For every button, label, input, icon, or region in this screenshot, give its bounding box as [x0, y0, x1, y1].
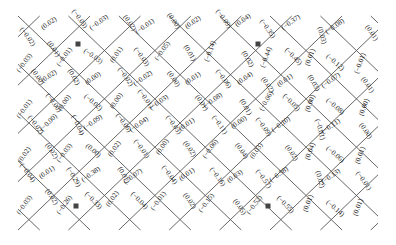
edge-weight-label: (0.01) [301, 193, 315, 213]
edge-weight-label: (0.04) [233, 141, 250, 160]
edge-weight-label: (0.00) [108, 91, 125, 110]
edge-weight-label: (−0.07) [320, 71, 343, 90]
edge-weight-label: (0.02) [106, 139, 123, 158]
node-marker [74, 204, 79, 209]
edge-weight-label: (−0.03) [82, 47, 105, 66]
node-marker [76, 42, 81, 47]
edge-weight-label: (−0.02) [132, 69, 155, 88]
edge-weight-label: (−0.01) [353, 51, 368, 74]
edge-weight-label: (0.01) [183, 70, 202, 87]
edge-weight-label: (0.00) [303, 93, 317, 113]
edge-weight-label: (−0.05) [281, 92, 302, 113]
edge-weight-label: (0.00) [165, 11, 182, 30]
lattice-edge [371, 223, 378, 230]
edge-weight-label: (0.02) [104, 189, 121, 208]
edge-weight-label: (0.04) [303, 141, 317, 161]
lattice-diagram: (−0.02)(0.02)(−0.03)(−0.03)(0.02)(−0.01)… [0, 0, 396, 245]
edge-weight-label: (0.01) [108, 45, 125, 64]
edge-weight-label: (−0.45) [283, 46, 304, 67]
edge-weight-label: (−0.13) [320, 167, 343, 186]
edge-weight-label: (−0.03) [15, 193, 34, 216]
edge-weight-label: (−0.08) [324, 17, 347, 36]
edge-weight-label: (−0.09) [82, 113, 105, 132]
edge-weight-label: (0.02) [283, 143, 300, 162]
edge-weight-label: (−0.58) [268, 165, 291, 184]
edge-weight-label: (0.01) [359, 75, 376, 94]
edge-weight-label: (0.05) [231, 197, 248, 216]
edge-weight-label: (−0.09) [214, 8, 233, 31]
edge-weight-label: (−0.04) [18, 162, 37, 185]
edge-weight-label: (−0.04) [129, 190, 150, 211]
edge-weight-label: (0.02) [66, 67, 82, 87]
edge-weight-label: (−0.06) [325, 145, 347, 165]
edge-weight-label: (0.02) [39, 15, 58, 32]
edge-weight-label: (0.01) [275, 72, 294, 89]
node-marker [256, 42, 261, 47]
edge-weight-label: (−0.03) [88, 13, 111, 32]
edge-weight-label: (−0.04) [128, 115, 151, 134]
edge-weight-label: (0.01) [363, 23, 380, 42]
edge-weight-label: (0.00) [83, 70, 102, 87]
edge-weight-label: (−0.52) [245, 193, 264, 216]
edge-weight-label: (−0.08) [325, 97, 347, 117]
edge-weight-label: (−0.55) [275, 194, 296, 215]
edge-weight-label: (−0.11) [320, 117, 342, 136]
edge-weight-label: (−0.00) [38, 112, 59, 133]
edge-weight-label: (−0.37) [280, 13, 303, 32]
edge-weight-label: (0.00) [56, 93, 73, 112]
edge-weight-label: (0.00) [229, 114, 248, 131]
edge-weight-label: (0.00) [357, 121, 374, 140]
edge-weight-label: (0.02) [39, 68, 58, 85]
edge-weight-label: (0.00) [154, 137, 171, 156]
lattice-edge [169, 16, 378, 216]
edge-weight-label: (−0.33) [83, 190, 104, 211]
edge-weight-label: (−0.35) [258, 18, 277, 41]
edge-weight-label: (0.00) [84, 142, 103, 160]
edge-weight-label: (0.01) [351, 197, 365, 217]
edge-weight-label: (0.01) [177, 166, 196, 183]
edge-weight-label: (0.00) [357, 97, 371, 117]
edge-weight-label: (0.03) [248, 141, 265, 160]
edge-weight-label: (0.02) [181, 191, 198, 210]
edge-weight-label: (0.01) [37, 164, 56, 181]
edge-weight-label: (0.04) [235, 70, 254, 87]
edge-weight-label: (−0.02) [18, 26, 37, 49]
edge-weight-label: (0.04) [233, 12, 252, 29]
edge-weight-label: (−0.14) [203, 39, 218, 62]
edge-weight-label: (0.02) [183, 14, 202, 31]
lattice-edge [371, 16, 378, 23]
node-marker [266, 204, 271, 209]
edge-weight-label: (−0.12) [325, 53, 347, 73]
